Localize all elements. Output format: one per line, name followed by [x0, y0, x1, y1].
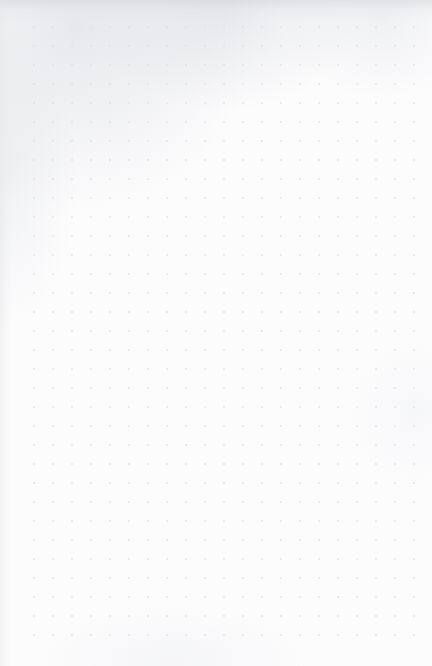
grid-dot [394, 634, 396, 636]
grid-dot [318, 558, 320, 560]
grid-dot [337, 64, 339, 66]
grid-dot [147, 596, 149, 598]
grid-dot [337, 216, 339, 218]
grid-dot [204, 330, 206, 332]
grid-dot [147, 349, 149, 351]
grid-dot [128, 520, 130, 522]
grid-dot [413, 140, 415, 142]
grid-dot [356, 463, 358, 465]
grid-dot [394, 26, 396, 28]
grid-dot [147, 235, 149, 237]
grid-dot [318, 577, 320, 579]
grid-dot [375, 121, 377, 123]
grid-dot [52, 406, 54, 408]
grid-dot [394, 406, 396, 408]
grid-dot [356, 444, 358, 446]
grid-dot [128, 634, 130, 636]
grid-dot [299, 311, 301, 313]
grid-dot [242, 387, 244, 389]
grid-dot [71, 102, 73, 104]
grid-dot [166, 539, 168, 541]
grid-dot [204, 254, 206, 256]
grid-dot [299, 140, 301, 142]
grid-dot [261, 501, 263, 503]
notebook-page [0, 0, 432, 666]
grid-dot [33, 425, 35, 427]
grid-dot [33, 330, 35, 332]
grid-dot [242, 596, 244, 598]
grid-dot [52, 425, 54, 427]
grid-dot [356, 140, 358, 142]
grid-dot [204, 64, 206, 66]
grid-dot [147, 64, 149, 66]
grid-dot [261, 83, 263, 85]
grid-dot [318, 26, 320, 28]
grid-dot [337, 615, 339, 617]
grid-dot [318, 520, 320, 522]
grid-dot [204, 387, 206, 389]
grid-dot [337, 577, 339, 579]
grid-dot [33, 311, 35, 313]
grid-dot [261, 254, 263, 256]
grid-dot [109, 463, 111, 465]
grid-dot [280, 254, 282, 256]
grid-dot [356, 45, 358, 47]
grid-dot [185, 368, 187, 370]
grid-dot [147, 558, 149, 560]
grid-dot [337, 26, 339, 28]
grid-dot [71, 140, 73, 142]
grid-dot [147, 83, 149, 85]
grid-dot [299, 577, 301, 579]
grid-dot [261, 140, 263, 142]
grid-dot [33, 121, 35, 123]
grid-dot [394, 349, 396, 351]
grid-dot [109, 596, 111, 598]
grid-dot [261, 539, 263, 541]
grid-dot [223, 330, 225, 332]
grid-dot [204, 482, 206, 484]
grid-dot [280, 387, 282, 389]
grid-dot [337, 140, 339, 142]
grid-dot [318, 615, 320, 617]
grid-dot [90, 482, 92, 484]
grid-dot [223, 178, 225, 180]
grid-dot [261, 292, 263, 294]
grid-dot [33, 273, 35, 275]
grid-dot [280, 45, 282, 47]
grid-dot [52, 159, 54, 161]
grid-dot [413, 463, 415, 465]
grid-dot [394, 64, 396, 66]
grid-dot [337, 178, 339, 180]
grid-dot [33, 539, 35, 541]
grid-dot [394, 178, 396, 180]
grid-dot [413, 596, 415, 598]
grid-dot [299, 197, 301, 199]
grid-dot [318, 216, 320, 218]
grid-dot [318, 330, 320, 332]
grid-dot [185, 102, 187, 104]
grid-dot [261, 577, 263, 579]
dot-grid [0, 0, 432, 666]
grid-dot [242, 615, 244, 617]
grid-dot [299, 634, 301, 636]
grid-dot [90, 311, 92, 313]
grid-dot [128, 254, 130, 256]
grid-dot [375, 140, 377, 142]
grid-dot [375, 444, 377, 446]
grid-dot [375, 83, 377, 85]
grid-dot [280, 235, 282, 237]
grid-dot [109, 387, 111, 389]
grid-dot [33, 615, 35, 617]
grid-dot [109, 26, 111, 28]
grid-dot [375, 292, 377, 294]
grid-dot [318, 102, 320, 104]
grid-dot [299, 539, 301, 541]
grid-dot [128, 273, 130, 275]
grid-dot [128, 482, 130, 484]
grid-dot [413, 425, 415, 427]
grid-dot [242, 292, 244, 294]
grid-dot [318, 311, 320, 313]
grid-dot [185, 140, 187, 142]
grid-dot [166, 634, 168, 636]
grid-dot [356, 501, 358, 503]
